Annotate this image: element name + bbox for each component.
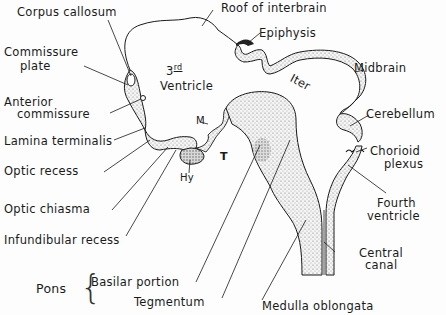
label-optic-chiasma: Optic chiasma	[4, 203, 90, 215]
label-lamina-terminalis: Lamina terminalis	[4, 135, 112, 147]
anterior-commissure-dot	[141, 96, 146, 101]
label-pons: Pons	[36, 283, 66, 295]
label-fourth-ventricle-2: ventricle	[367, 210, 420, 222]
label-optic-recess: Optic recess	[4, 165, 79, 177]
label-m: M	[196, 115, 205, 127]
label-tegmentum: Tegmentum	[134, 296, 205, 308]
label-hy: Hy	[180, 172, 194, 184]
third-ventricle-sup: rd	[174, 63, 183, 72]
tegmentum-shade	[253, 138, 271, 162]
label-midbrain: Midbrain	[354, 62, 406, 74]
label-third-ventricle: Ventricle	[160, 80, 213, 92]
label-cerebellum: Cerebellum	[366, 108, 435, 120]
label-t: T	[220, 151, 228, 163]
label-corpus-callosum: Corpus callosum	[17, 6, 117, 18]
label-infundibular-recess: Infundibular recess	[4, 234, 120, 246]
third-ventricle-num: 3	[166, 64, 174, 78]
label-medulla-oblongata: Medulla oblongata	[262, 300, 374, 312]
label-central-canal-2: canal	[365, 259, 397, 271]
label-commissure-plate: Commissure	[4, 46, 79, 58]
label-roof-of-interbrain: Roof of interbrain	[221, 2, 327, 14]
optic-recess-floor	[145, 130, 197, 150]
cerebellum	[337, 114, 363, 142]
brain-sagittal-diagram: Corpus callosum Commissure plate Anterio…	[0, 0, 446, 315]
label-anterior-commissure-2: commissure	[17, 108, 90, 120]
label-chorioid-plexus-2: plexus	[384, 158, 423, 170]
label-epiphysis: Epiphysis	[259, 27, 316, 39]
label-third-ventricle-number: 3rd	[166, 62, 182, 77]
label-commissure-plate-2: plate	[20, 60, 51, 72]
hypophysis	[180, 148, 204, 164]
label-fourth-ventricle: Fourth	[377, 197, 416, 209]
brainstem	[226, 92, 322, 275]
fourth-ventricle-wall	[326, 146, 362, 275]
label-chorioid-plexus: Chorioid	[370, 145, 420, 157]
label-basilar-portion: Basilar portion	[91, 276, 179, 288]
